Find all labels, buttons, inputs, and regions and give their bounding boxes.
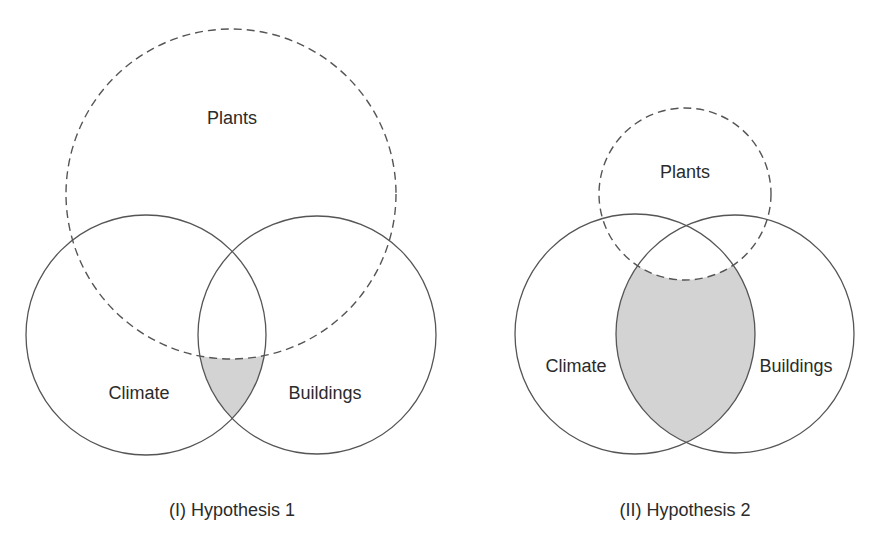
- h2-climate-label: Climate: [545, 356, 606, 376]
- h2-caption: (II) Hypothesis 2: [619, 500, 750, 520]
- venn-figure: Plants Climate Buildings (I) Hypothesis …: [0, 0, 878, 551]
- h1-caption: (I) Hypothesis 1: [169, 500, 295, 520]
- h1-climate-label: Climate: [108, 383, 169, 403]
- hypothesis-2-diagram: Plants Climate Buildings (II) Hypothesis…: [515, 108, 854, 520]
- h1-shaded-region: [198, 216, 436, 454]
- h2-plants-label: Plants: [660, 162, 710, 182]
- h2-buildings-label: Buildings: [759, 356, 832, 376]
- hypothesis-1-diagram: Plants Climate Buildings (I) Hypothesis …: [26, 29, 436, 520]
- h2-shaded-region: [616, 215, 854, 453]
- h1-buildings-label: Buildings: [288, 383, 361, 403]
- h1-plants-label: Plants: [207, 108, 257, 128]
